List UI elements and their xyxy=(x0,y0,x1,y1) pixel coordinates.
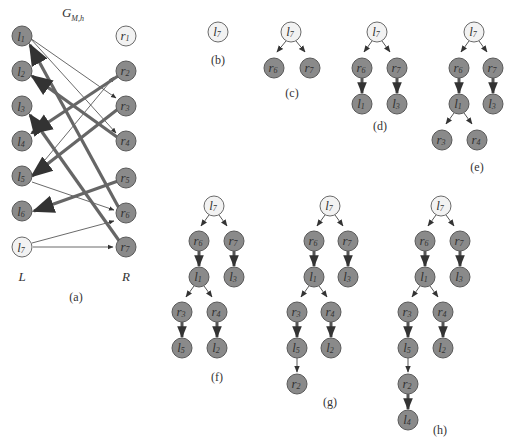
tree-h: l7 r6 r7 l1 l3 r3 r4 l5 l2 r2 l4 (h) xyxy=(398,196,470,437)
node-r5: r5 xyxy=(116,168,136,188)
node-r2: r2 xyxy=(116,61,136,81)
node-l7: l7 xyxy=(208,22,228,42)
node-l7: l7 xyxy=(320,196,340,216)
node-l3: l3 xyxy=(387,94,407,114)
caption-c: (c) xyxy=(285,86,298,100)
caption-b: (b) xyxy=(211,53,225,67)
node-r6: r6 xyxy=(189,231,209,251)
node-l4: l4 xyxy=(398,410,418,430)
caption-e: (e) xyxy=(470,160,483,174)
node-l2: l2 xyxy=(207,338,227,358)
node-r3: r3 xyxy=(432,130,452,150)
node-l7: l7 xyxy=(281,22,301,42)
node-r6: r6 xyxy=(304,231,324,251)
node-r7: r7 xyxy=(338,231,358,251)
node-r3: r3 xyxy=(398,302,418,322)
node-l1: l1 xyxy=(189,267,209,287)
right-nodes: r1 r2 r3 r4 r5 r6 r7 xyxy=(116,26,136,257)
node-r4: r4 xyxy=(433,302,453,322)
edge-l7-r6 xyxy=(32,221,114,243)
node-r2: r2 xyxy=(287,374,307,394)
caption-g: (g) xyxy=(323,395,337,409)
left-side-label: L xyxy=(17,269,25,284)
node-l7: l7 xyxy=(464,22,484,42)
node-l7: l7 xyxy=(204,196,224,216)
node-r7: r7 xyxy=(116,237,136,257)
node-l7: l7 xyxy=(367,22,387,42)
node-r3: r3 xyxy=(287,302,307,322)
bipartite-matching-figure: GM,h l1 l2 l3 l4 l5 l6 l7 xyxy=(0,0,510,441)
right-side-label: R xyxy=(121,269,130,284)
node-l3: l3 xyxy=(450,267,470,287)
node-l5: l5 xyxy=(172,338,192,358)
node-l5: l5 xyxy=(12,166,32,186)
node-l1: l1 xyxy=(449,94,469,114)
edge-r7-l3 xyxy=(30,115,120,242)
node-l7: l7 xyxy=(431,196,451,216)
node-l1: l1 xyxy=(12,26,32,46)
node-l3: l3 xyxy=(338,267,358,287)
node-r7: r7 xyxy=(300,58,320,78)
caption-d: (d) xyxy=(373,119,387,133)
node-r6: r6 xyxy=(449,58,469,78)
caption-h: (h) xyxy=(433,423,447,437)
tree-c: l7 r6 r7 (c) xyxy=(264,22,320,100)
tree-e: l7 r6 r7 l1 l3 r3 r4 (e) xyxy=(432,22,503,174)
node-r7: r7 xyxy=(483,58,503,78)
node-r7: r7 xyxy=(224,231,244,251)
node-r4: r4 xyxy=(321,302,341,322)
node-r7: r7 xyxy=(387,58,407,78)
node-r6: r6 xyxy=(352,58,372,78)
edge-r5-l6 xyxy=(34,181,118,211)
node-l6: l6 xyxy=(12,201,32,221)
tree-b: l7 (b) xyxy=(208,22,228,67)
node-r6: r6 xyxy=(116,203,136,223)
node-r4: r4 xyxy=(116,131,136,151)
node-l4: l4 xyxy=(12,131,32,151)
caption-f: (f) xyxy=(211,370,223,384)
graph-a: GM,h l1 l2 l3 l4 l5 l6 l7 xyxy=(12,5,136,304)
node-l1: l1 xyxy=(415,267,435,287)
node-l1: l1 xyxy=(352,94,372,114)
tree-g: l7 r6 r7 l1 l3 r3 r4 l5 l2 r2 (g) xyxy=(287,196,358,409)
caption-a: (a) xyxy=(69,290,82,304)
node-r1: r1 xyxy=(116,26,136,46)
node-r4: r4 xyxy=(467,130,487,150)
tree-d: l7 r6 r7 l1 l3 (d) xyxy=(352,22,407,133)
node-l5: l5 xyxy=(287,338,307,358)
node-r6: r6 xyxy=(264,58,284,78)
matching-edges xyxy=(30,45,120,242)
node-l1: l1 xyxy=(304,267,324,287)
graph-title: GM,h xyxy=(62,5,84,23)
node-l3: l3 xyxy=(12,96,32,116)
node-l5: l5 xyxy=(398,338,418,358)
node-l3: l3 xyxy=(483,94,503,114)
node-r6: r6 xyxy=(415,231,435,251)
node-l3: l3 xyxy=(224,267,244,287)
left-nodes: l1 l2 l3 l4 l5 l6 l7 xyxy=(12,26,32,257)
node-l2: l2 xyxy=(12,61,32,81)
node-l2: l2 xyxy=(321,338,341,358)
node-r2: r2 xyxy=(398,374,418,394)
edge-r3-l5 xyxy=(32,109,118,176)
node-r3: r3 xyxy=(172,302,192,322)
node-r4: r4 xyxy=(207,302,227,322)
node-r7: r7 xyxy=(450,231,470,251)
node-l2: l2 xyxy=(433,338,453,358)
node-r3: r3 xyxy=(116,96,136,116)
tree-f: l7 r6 r7 l1 l3 r3 r4 l5 l2 (f) xyxy=(172,196,244,384)
node-l7: l7 xyxy=(12,237,32,257)
